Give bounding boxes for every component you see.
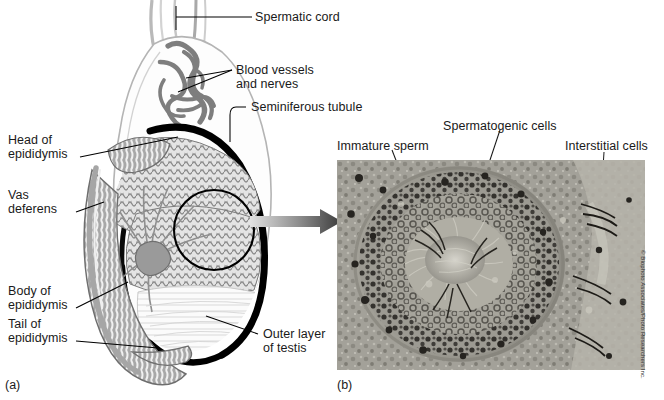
label-seminiferous-tubule: Seminiferous tubule — [251, 100, 362, 114]
label-tail-of-epididymis-line1: Tail of — [8, 317, 41, 331]
outer-layer-of-testis-shape — [122, 127, 265, 362]
figure-root: © Biophoto Associates/Photo Researchers … — [0, 0, 664, 400]
epididymis-shape — [84, 137, 192, 385]
label-body-of-epididymis-line1: Body of — [8, 284, 51, 298]
label-outer-layer-of-testis-line1: Outer layer — [263, 327, 325, 341]
label-head-of-epididymis-line1: Head of — [8, 133, 52, 147]
panel-link-arrow — [250, 209, 342, 234]
label-tail-of-epididymis-line2: epididymis — [8, 331, 68, 345]
magnification-circle — [174, 190, 254, 270]
label-blood-vessels-line2: and nerves — [236, 77, 298, 91]
panel-a-leader-lines — [76, 6, 258, 348]
panel-letter-a: (a) — [5, 378, 20, 392]
label-outer-layer-of-testis-line2: of testis — [263, 341, 307, 355]
label-immature-sperm: Immature sperm — [337, 139, 429, 153]
micrograph-image — [337, 160, 645, 370]
label-head-of-epididymis-line2: epididymis — [8, 147, 68, 161]
label-spermatic-cord: Spermatic cord — [255, 10, 340, 24]
blood-vessels-shape — [160, 43, 214, 128]
label-spermatogenic-cells: Spermatogenic cells — [443, 119, 557, 133]
seminiferous-lobules-shape — [110, 137, 262, 372]
photo-credit: © Biophoto Associates/Photo Researchers … — [640, 250, 646, 380]
label-interstitial-cells: Interstitial cells — [565, 139, 648, 153]
panel-letter-b: (b) — [337, 378, 352, 392]
label-blood-vessels-line1: Blood vessels — [236, 63, 314, 77]
label-vas-deferens-line2: deferens — [8, 202, 57, 216]
spermatic-cord-shape — [151, 0, 206, 98]
label-body-of-epididymis-line2: epididymis — [8, 298, 68, 312]
label-vas-deferens-line1: Vas — [8, 188, 29, 202]
testis-body-shape — [108, 128, 264, 352]
